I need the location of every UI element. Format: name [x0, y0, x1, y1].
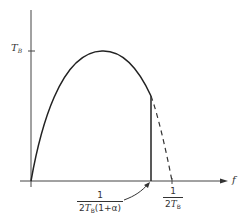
cutoff-fraction-bar — [77, 201, 123, 202]
spectrum-diagram — [0, 0, 252, 224]
dashed-extension — [151, 96, 172, 181]
x-axis-symbol: f — [232, 174, 236, 185]
nyquist-fraction-bar — [163, 197, 183, 198]
cutoff-numerator: 1 — [77, 190, 123, 200]
cutoff-denominator: 2TB(1+α) — [77, 203, 123, 216]
nyquist-frequency-label: 1 2TB — [163, 186, 183, 212]
nyquist-numerator: 1 — [163, 186, 183, 196]
cutoff-frequency-label: 1 2TB(1+α) — [77, 190, 123, 216]
cutoff-pointer-arrow — [124, 184, 148, 200]
nyquist-den-sub: B — [177, 203, 181, 210]
x-axis-arrow-icon — [220, 179, 228, 184]
cutoff-den-suffix: (1+α) — [95, 203, 121, 213]
y-tick-symbol: T — [11, 42, 18, 53]
x-axis-label: f — [232, 174, 236, 185]
spectrum-curve — [31, 51, 151, 181]
y-tick-label: TB — [11, 42, 22, 54]
nyquist-denominator: 2TB — [163, 199, 183, 212]
y-tick-subscript: B — [18, 47, 22, 54]
